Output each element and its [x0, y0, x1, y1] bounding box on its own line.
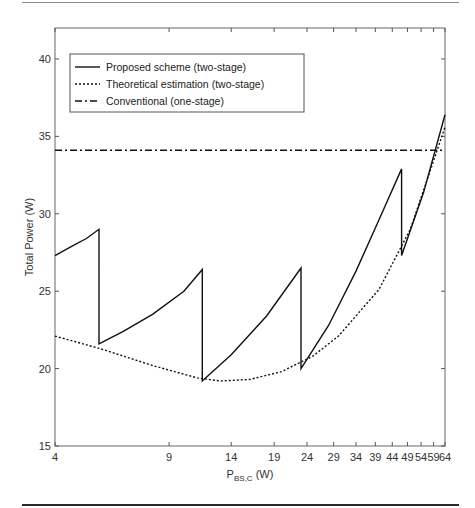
y-tick-label: 35 — [39, 130, 51, 142]
x-tick-label: 49 — [401, 451, 413, 463]
x-axis-title-main: P — [227, 468, 234, 480]
legend-label-proposed: Proposed scheme (two-stage) — [106, 61, 246, 73]
x-tick-label: 54 — [415, 451, 427, 463]
x-axis-title-unit: (W) — [253, 468, 274, 480]
x-tick-label: 24 — [301, 451, 313, 463]
y-tick-label: 40 — [39, 53, 51, 65]
series-line-1 — [55, 127, 445, 381]
x-tick-label: 4 — [52, 451, 58, 463]
x-tick-label: 44 — [386, 451, 398, 463]
x-tick-label: 39 — [369, 451, 381, 463]
x-tick-label: 59 — [427, 451, 439, 463]
y-tick-label: 15 — [39, 440, 51, 452]
legend-label-conventional: Conventional (one-stage) — [106, 95, 224, 107]
x-tick-label: 9 — [166, 451, 172, 463]
x-tick-label: 29 — [328, 451, 340, 463]
x-axis-title-sub: BS,C — [234, 474, 253, 483]
bottom-rule — [22, 504, 459, 506]
x-tick-label: 64 — [439, 451, 451, 463]
series-line-0 — [55, 115, 445, 381]
chart: 491419242934394449545964 152025303540 To… — [0, 0, 475, 508]
x-tick-label: 34 — [350, 451, 362, 463]
y-axis-title: Total Power (W) — [23, 198, 35, 276]
series-layer — [55, 115, 445, 381]
x-tick-label: 19 — [268, 451, 280, 463]
y-tick-label: 30 — [39, 208, 51, 220]
x-axis-title: PBS,C (W) — [227, 468, 274, 483]
legend-label-theoretical: Theoretical estimation (two-stage) — [106, 78, 264, 90]
y-tick-label: 20 — [39, 363, 51, 375]
legend: Proposed scheme (two-stage) Theoretical … — [70, 54, 304, 112]
y-tick-label: 25 — [39, 285, 51, 297]
x-tick-label: 14 — [225, 451, 237, 463]
